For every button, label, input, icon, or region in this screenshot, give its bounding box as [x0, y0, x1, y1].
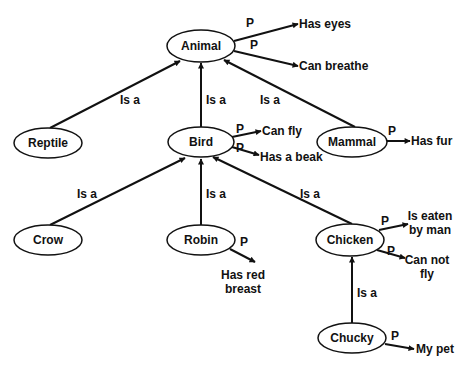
- node-label: Chicken: [327, 233, 374, 247]
- property-marker: P: [388, 124, 396, 138]
- isa-edge-robin-bird: Is a: [201, 159, 226, 225]
- property-value: Has eyes: [299, 17, 351, 31]
- property-edge-chicken: PIs eatenby man: [379, 209, 452, 237]
- isa-edge-chucky-chicken: Is a: [352, 257, 377, 323]
- isa-edge-reptile-animal: Is a: [50, 61, 180, 128]
- node-label: Robin: [184, 233, 218, 247]
- property-edge-bird: PHas a beak: [232, 141, 323, 164]
- node-robin: Robin: [167, 225, 235, 255]
- property-edges: PHas eyesPCan breathePCan flyPHas a beak…: [221, 16, 454, 356]
- property-arrow: [234, 24, 298, 41]
- node-chicken: Chicken: [316, 224, 384, 256]
- property-marker: P: [236, 141, 244, 155]
- node-label: Chucky: [330, 331, 374, 345]
- node-chucky: Chucky: [318, 323, 386, 353]
- isa-label: Is a: [77, 187, 97, 201]
- property-value: Has fur: [411, 134, 453, 148]
- isa-arrow: [50, 158, 185, 225]
- property-marker: P: [387, 244, 395, 258]
- property-arrow: [385, 344, 414, 349]
- isa-label: Is a: [357, 286, 377, 300]
- node-bird: Bird: [168, 127, 234, 157]
- property-value: My pet: [416, 342, 454, 356]
- property-arrow: [230, 249, 255, 262]
- isa-label: Is a: [120, 93, 140, 107]
- property-arrow: [234, 51, 298, 66]
- isa-edge-crow-bird: Is a: [50, 158, 185, 225]
- node-label: Reptile: [28, 136, 68, 150]
- isa-edges: Is aIs aIs aIs aIs aIs aIs a: [50, 60, 377, 323]
- property-value: Has redbreast: [221, 268, 265, 296]
- node-label: Mammal: [328, 135, 376, 149]
- property-value: Can notfly: [405, 253, 450, 281]
- isa-label: Is a: [206, 93, 226, 107]
- node-label: Animal: [181, 39, 221, 53]
- node-crow: Crow: [14, 225, 82, 255]
- property-marker: P: [391, 329, 399, 343]
- node-animal: Animal: [167, 30, 235, 62]
- property-edge-chicken: PCan notfly: [377, 244, 449, 281]
- property-value: Can breathe: [299, 59, 369, 73]
- isa-label: Is a: [260, 93, 280, 107]
- isa-arrow: [213, 157, 352, 224]
- property-value: Can fly: [262, 124, 302, 138]
- property-marker: P: [246, 16, 254, 30]
- property-edge-mammal: PHas fur: [387, 124, 453, 148]
- property-value: Has a beak: [260, 150, 323, 164]
- isa-label: Is a: [206, 187, 226, 201]
- semantic-network-diagram: Is aIs aIs aIs aIs aIs aIs a PHas eyesPC…: [0, 0, 468, 367]
- property-marker: P: [236, 122, 244, 136]
- property-marker: P: [381, 214, 389, 228]
- node-label: Crow: [33, 233, 64, 247]
- node-label: Bird: [189, 135, 213, 149]
- isa-edge-bird-animal: Is a: [201, 63, 226, 127]
- isa-arrow: [50, 61, 180, 128]
- diagram-canvas: Is aIs aIs aIs aIs aIs aIs a PHas eyesPC…: [0, 0, 468, 367]
- node-reptile: Reptile: [14, 128, 82, 158]
- property-marker: P: [250, 38, 258, 52]
- property-edge-animal: PCan breathe: [234, 38, 369, 73]
- property-marker: P: [240, 235, 248, 249]
- isa-edge-chicken-bird: Is a: [213, 157, 352, 224]
- property-edge-chucky: PMy pet: [385, 329, 454, 356]
- node-mammal: Mammal: [317, 127, 387, 157]
- isa-label: Is a: [300, 187, 320, 201]
- property-value: Is eatenby man: [408, 209, 453, 237]
- property-edge-bird: PCan fly: [232, 122, 302, 138]
